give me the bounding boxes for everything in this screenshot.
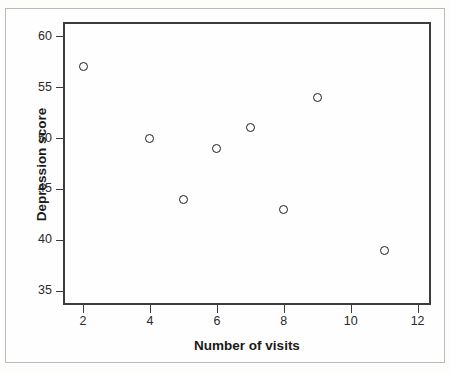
x-axis-tick [351, 305, 352, 313]
data-point [179, 195, 188, 204]
y-axis-tick-label: 35 [22, 284, 52, 297]
x-axis-tick [217, 305, 218, 313]
x-axis-tick [150, 305, 151, 313]
data-point [79, 62, 88, 71]
y-axis-tick [56, 138, 63, 139]
plot-area [63, 22, 431, 305]
data-point [279, 205, 288, 214]
x-axis-title: Number of visits [63, 338, 431, 353]
y-axis-tick-label: 60 [22, 30, 52, 43]
x-axis-tick-label: 8 [269, 315, 299, 328]
x-axis-tick [418, 305, 419, 313]
scatter-plot-figure: 354045505560 24681012 Number of visits D… [0, 0, 451, 373]
data-point [212, 144, 221, 153]
x-axis-tick-label: 12 [403, 315, 433, 328]
x-axis-tick [284, 305, 285, 313]
y-axis-tick [56, 240, 63, 241]
data-point [246, 123, 255, 132]
data-point [145, 134, 154, 143]
x-axis-tick-label: 6 [202, 315, 232, 328]
x-axis-tick [83, 305, 84, 313]
y-axis-tick [56, 36, 63, 37]
x-axis-tick-label: 2 [68, 315, 98, 328]
y-axis-tick [56, 189, 63, 190]
data-point [313, 93, 322, 102]
data-point [380, 246, 389, 255]
x-axis-tick-label: 10 [336, 315, 366, 328]
x-axis-tick-label: 4 [135, 315, 165, 328]
y-axis-title: Depression score [34, 45, 49, 285]
y-axis-tick [56, 87, 63, 88]
y-axis-tick [56, 291, 63, 292]
